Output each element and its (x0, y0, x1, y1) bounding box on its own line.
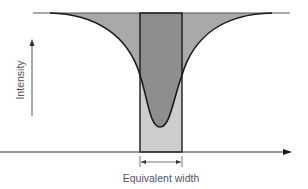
equivalent-width-diagram: Intensity Equivalent width (0, 0, 308, 189)
width-arrow-right-icon (176, 160, 181, 164)
width-arrow-left-icon (141, 160, 146, 164)
equivalent-width-label: Equivalent width (123, 172, 200, 184)
intensity-arrowhead-icon (30, 39, 35, 46)
intensity-label: Intensity (14, 60, 26, 100)
baseline-arrowhead-icon (283, 149, 292, 155)
equivalent-width-rect-above-curve (50, 13, 272, 127)
